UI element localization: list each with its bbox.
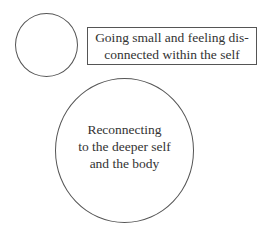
- circle-text: Reconnecting to the deeper self and the …: [78, 121, 171, 172]
- circle-text-line: to the deeper self: [78, 138, 171, 155]
- box-text: Going small and feeling dis- connected w…: [95, 29, 249, 63]
- box-text-line: Going small and feeling dis-: [95, 29, 249, 46]
- circle-text-line: Reconnecting: [78, 121, 171, 138]
- reconnecting-circle: Reconnecting to the deeper self and the …: [55, 78, 194, 223]
- circle-text-line: and the body: [78, 155, 171, 172]
- empty-circle: [15, 13, 78, 77]
- disconnected-self-box: Going small and feeling dis- connected w…: [87, 27, 257, 65]
- box-text-line: connected within the self: [95, 46, 249, 63]
